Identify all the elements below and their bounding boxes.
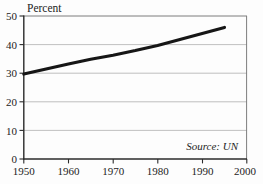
x-tick-label-1980: 1980 <box>147 165 170 177</box>
x-tick-label-1990: 1990 <box>192 165 215 177</box>
y-tick-label-30: 30 <box>6 67 18 79</box>
y-tick-label-20: 20 <box>6 96 18 108</box>
y-tick-label-0: 0 <box>12 153 18 165</box>
x-tick-label-2000: 2000 <box>234 165 257 177</box>
y-tick-label-10: 10 <box>6 125 18 137</box>
y-axis-label: Percent <box>27 2 62 14</box>
x-tick-label-1960: 1960 <box>58 165 81 177</box>
y-tick-label-40: 40 <box>6 39 18 51</box>
source-annotation: Source: UN <box>186 140 238 152</box>
chart-screenshot: 50 40 30 20 10 0 1950 1960 1970 1980 199… <box>0 0 263 184</box>
x-tick-label-1950: 1950 <box>13 165 36 177</box>
y-tick-label-50: 50 <box>6 10 18 22</box>
line-chart: 50 40 30 20 10 0 1950 1960 1970 1980 199… <box>0 0 263 184</box>
x-tick-label-1970: 1970 <box>102 165 125 177</box>
